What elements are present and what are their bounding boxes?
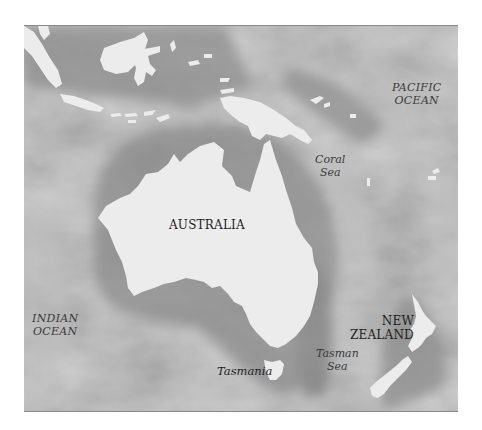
label-line: OCEAN [32,326,79,339]
label-line: Sea [315,167,345,180]
label-line: Coral [315,154,345,167]
label-line: NEW [350,315,414,329]
label-line: PACIFIC [392,82,442,95]
label-line: Tasman [316,348,359,361]
label-tasmania: Tasmania [217,365,272,378]
label-line: OCEAN [392,95,442,108]
label-australia: AUSTRALIA [169,219,245,233]
label-indian-ocean: INDIAN OCEAN [32,313,79,338]
label-line: INDIAN [32,313,79,326]
label-tasman-sea: Tasman Sea [316,348,359,373]
label-line: ZEALAND [350,329,414,343]
label-line: Sea [316,361,359,374]
label-new-zealand: NEW ZEALAND [350,315,414,343]
label-coral-sea: Coral Sea [315,154,345,179]
label-pacific-ocean: PACIFIC OCEAN [392,82,442,107]
map-frame: PACIFIC OCEAN Coral Sea AUSTRALIA INDIAN… [24,25,458,412]
